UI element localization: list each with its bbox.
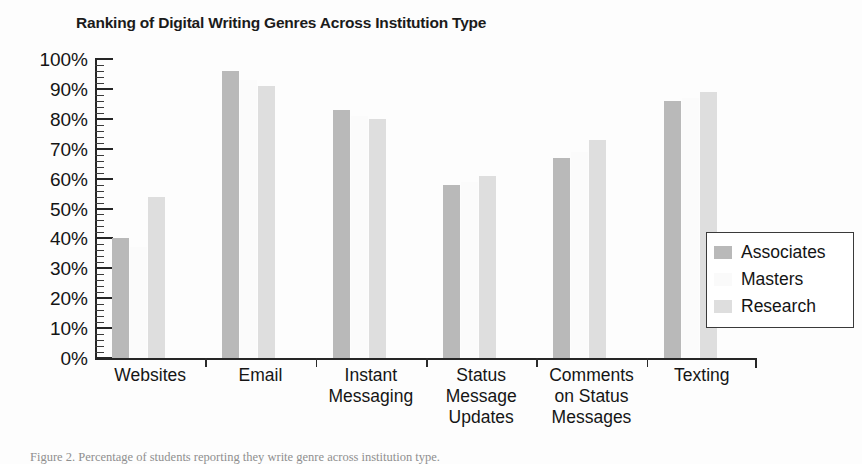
y-tick-major — [95, 148, 113, 150]
chart-legend: Associates Masters Research — [706, 232, 854, 328]
x-axis-category-label-line: on Status — [536, 386, 646, 407]
x-axis-category-label-line: Messaging — [316, 386, 426, 407]
legend-item-research: Research — [714, 293, 846, 320]
legend-item-masters: Masters — [714, 266, 846, 293]
y-tick-minor — [95, 250, 104, 251]
y-tick-minor — [95, 197, 104, 198]
bar-masters — [682, 98, 699, 358]
y-tick-minor — [95, 214, 104, 215]
chart-plot-area: 0%10%20%30%40%50%60%70%80%90%100% Websit… — [95, 59, 757, 359]
y-axis-tick-label: 30% — [50, 259, 88, 278]
y-tick-minor — [95, 173, 104, 174]
bar-group — [112, 59, 165, 358]
x-axis-category-label-line: Message — [426, 386, 536, 407]
y-tick-minor — [95, 191, 104, 192]
y-tick-major — [95, 118, 113, 120]
bar-associates — [443, 185, 460, 358]
y-tick-minor — [95, 280, 104, 281]
bar-research — [369, 119, 386, 358]
y-axis-tick-label: 80% — [50, 109, 88, 128]
bar-associates — [222, 71, 239, 358]
x-axis-category-label-line: Texting — [647, 365, 757, 386]
x-axis-category-label-line: Comments — [536, 365, 646, 386]
y-tick-minor — [95, 131, 104, 132]
y-tick-major — [95, 208, 113, 210]
bar-masters — [461, 182, 478, 358]
y-tick-minor — [95, 71, 104, 72]
y-tick-minor — [95, 274, 104, 275]
x-axis-category-label-line: Updates — [426, 407, 536, 428]
bar-group — [553, 59, 606, 358]
y-tick-minor — [95, 316, 104, 317]
y-tick-minor — [95, 286, 104, 287]
y-tick-major — [95, 178, 113, 180]
y-tick-minor — [95, 95, 104, 96]
y-tick-minor — [95, 161, 104, 162]
y-tick-minor — [95, 232, 104, 233]
page-title: Ranking of Digital Writing Genres Across… — [76, 14, 776, 32]
y-tick-minor — [95, 304, 104, 305]
legend-item-associates: Associates — [714, 239, 846, 266]
legend-swatch-icon — [714, 300, 732, 313]
y-tick-minor — [95, 310, 104, 311]
y-axis-tick-label: 100% — [39, 50, 88, 69]
y-tick-minor — [95, 220, 104, 221]
bar-group — [443, 59, 496, 358]
bar-associates — [112, 238, 129, 358]
legend-label: Masters — [741, 269, 803, 290]
y-axis-tick-label: 90% — [50, 79, 88, 98]
x-axis-category-label: Texting — [647, 365, 757, 386]
y-tick-minor — [95, 137, 104, 138]
y-tick-minor — [95, 65, 104, 66]
y-tick-minor — [95, 340, 104, 341]
legend-swatch-icon — [714, 246, 732, 259]
x-axis-category-label: Email — [205, 365, 315, 386]
y-tick-minor — [95, 107, 104, 108]
y-axis-tick-label: 20% — [50, 289, 88, 308]
x-axis-category-label-line: Instant — [316, 365, 426, 386]
x-axis-category-label-line: Websites — [95, 365, 205, 386]
figure-caption: Figure 2. Percentage of students reporti… — [30, 450, 830, 464]
y-tick-minor — [95, 125, 104, 126]
y-axis-tick-label: 0% — [61, 349, 88, 368]
y-tick-major — [95, 88, 113, 90]
bar-associates — [553, 158, 570, 358]
y-tick-minor — [95, 292, 104, 293]
y-tick-major — [95, 267, 113, 269]
y-axis-tick-label: 60% — [50, 169, 88, 188]
y-tick-major — [95, 297, 113, 299]
bar-masters — [130, 247, 147, 358]
legend-swatch-icon — [714, 273, 732, 286]
legend-label: Associates — [741, 242, 826, 263]
x-axis-category-label-line: Messages — [536, 407, 646, 428]
bar-research — [148, 197, 165, 358]
y-tick-major — [95, 237, 113, 239]
bar-masters — [351, 116, 368, 358]
bar-research — [589, 140, 606, 358]
y-axis-tick-label: 10% — [50, 319, 88, 338]
bar-research — [258, 86, 275, 358]
y-tick-major — [95, 58, 113, 60]
x-axis-category-label: StatusMessageUpdates — [426, 365, 536, 428]
legend-label: Research — [741, 296, 816, 317]
y-tick-minor — [95, 77, 104, 78]
y-tick-minor — [95, 113, 104, 114]
bar-associates — [333, 110, 350, 358]
bar-group — [333, 59, 386, 358]
bar-masters — [240, 80, 257, 358]
y-tick-major — [95, 327, 113, 329]
bar-group — [222, 59, 275, 358]
y-tick-minor — [95, 143, 104, 144]
y-tick-minor — [95, 346, 104, 347]
x-axis-category-label-line: Status — [426, 365, 536, 386]
y-axis-tick-label: 40% — [50, 229, 88, 248]
x-axis-category-label: InstantMessaging — [316, 365, 426, 407]
figure-page: Ranking of Digital Writing Genres Across… — [0, 0, 862, 464]
x-axis-category-label-line: Email — [205, 365, 315, 386]
y-tick-minor — [95, 244, 104, 245]
y-tick-minor — [95, 226, 104, 227]
y-tick-minor — [95, 322, 104, 323]
y-tick-minor — [95, 334, 104, 335]
bar-associates — [664, 101, 681, 358]
y-tick-minor — [95, 256, 104, 257]
